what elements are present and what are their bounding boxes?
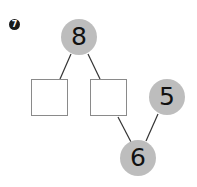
top-circle: 8	[61, 19, 97, 55]
line-top-to-left-box	[60, 54, 71, 79]
right-circle: 5	[149, 79, 185, 115]
left-answer-box[interactable]	[31, 79, 68, 116]
line-top-to-right-box	[88, 54, 100, 79]
line-right-box-to-bottom	[118, 117, 131, 142]
problem-number-badge: 7	[9, 19, 20, 30]
line-right-circle-to-bottom	[146, 114, 158, 141]
bottom-circle: 6	[120, 140, 156, 176]
right-answer-box[interactable]	[90, 79, 127, 116]
